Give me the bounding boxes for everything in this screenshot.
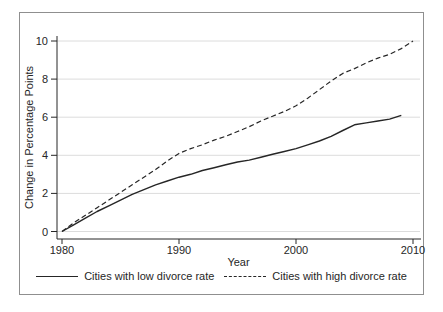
low-divorce-rate-line bbox=[62, 115, 401, 231]
x-tick-label: 1990 bbox=[167, 244, 191, 256]
y-tick-label: 4 bbox=[42, 149, 48, 161]
legend-item-low-divorce: Cities with low divorce rate bbox=[36, 270, 214, 282]
y-tick-label: 6 bbox=[42, 111, 48, 123]
y-axis-title: Change in Percentage Points bbox=[23, 65, 35, 209]
x-tick-label: 2010 bbox=[401, 244, 425, 256]
legend-item-high-divorce: Cities with high divorce rate bbox=[224, 270, 407, 282]
y-tick-label: 8 bbox=[42, 73, 48, 85]
y-tick-label: 2 bbox=[42, 187, 48, 199]
y-tick-label: 10 bbox=[36, 35, 48, 47]
x-tick-label: 2000 bbox=[284, 244, 308, 256]
legend-label-low-divorce: Cities with low divorce rate bbox=[84, 270, 214, 282]
x-axis-title: Year bbox=[227, 256, 250, 268]
solid-line-sample-icon bbox=[36, 276, 78, 277]
dashed-line-sample-icon bbox=[224, 276, 266, 277]
divorce-rate-line-chart: 02468101980199020002010YearChange in Per… bbox=[0, 0, 443, 312]
legend-label-high-divorce: Cities with high divorce rate bbox=[272, 270, 407, 282]
legend: Cities with low divorce rate Cities with… bbox=[19, 270, 424, 282]
plot-area: 02468101980199020002010YearChange in Per… bbox=[0, 0, 443, 312]
y-tick-label: 0 bbox=[42, 226, 48, 238]
x-tick-label: 1980 bbox=[50, 244, 74, 256]
